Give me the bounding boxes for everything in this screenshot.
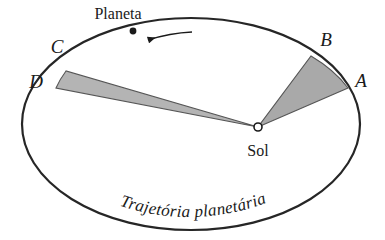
- vertex-label-c: C: [51, 36, 64, 57]
- sun-label: Sol: [247, 142, 269, 159]
- kepler-second-law-diagram: Planeta Sol A B C D Trajetória planetári…: [0, 0, 385, 240]
- planetary-orbit-ellipse: [22, 18, 360, 230]
- planet-label: Planeta: [94, 5, 141, 22]
- planet-dot: [130, 28, 137, 35]
- diagram-canvas: Planeta Sol A B C D Trajetória planetári…: [0, 0, 385, 240]
- vertex-label-b: B: [320, 29, 332, 50]
- vertex-label-d: D: [28, 71, 43, 92]
- vertex-label-a: A: [353, 70, 367, 91]
- sun-marker: [254, 123, 262, 131]
